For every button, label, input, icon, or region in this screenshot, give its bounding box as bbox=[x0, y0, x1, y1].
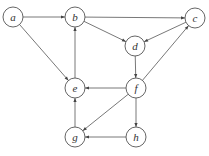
node-g: g bbox=[65, 127, 85, 147]
node-h: h bbox=[126, 127, 146, 147]
node-d: d bbox=[125, 36, 145, 56]
node-a: a bbox=[3, 7, 23, 27]
node-b: b bbox=[65, 7, 85, 27]
node-label: g bbox=[72, 131, 78, 143]
edge-b-c bbox=[85, 17, 185, 18]
node-e: e bbox=[65, 78, 85, 98]
directed-graph: abcdefgh bbox=[0, 0, 209, 156]
node-label: c bbox=[193, 12, 198, 24]
edge-b-d bbox=[84, 21, 126, 41]
edge-f-c bbox=[142, 26, 188, 81]
node-label: d bbox=[132, 40, 138, 52]
edge-f-g bbox=[83, 94, 128, 130]
node-label: a bbox=[10, 11, 16, 23]
nodes: abcdefgh bbox=[3, 7, 205, 147]
edge-d-f bbox=[135, 56, 136, 78]
node-label: h bbox=[133, 131, 139, 143]
node-c: c bbox=[185, 8, 205, 28]
edge-c-d bbox=[144, 22, 186, 42]
node-f: f bbox=[126, 78, 146, 98]
edge-a-e bbox=[20, 25, 69, 81]
edges bbox=[20, 17, 189, 137]
node-label: b bbox=[72, 11, 78, 23]
node-label: e bbox=[73, 82, 78, 94]
